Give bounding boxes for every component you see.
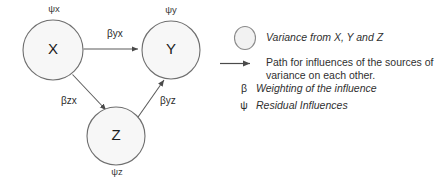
node-z-label: Z (111, 126, 120, 143)
edge-x-to-z: βzx (61, 75, 106, 111)
node-x-residual-label: ψx (48, 3, 60, 14)
legend-item-beta: β Weighting of the influence (241, 82, 377, 94)
node-y[interactable]: Y ψy (142, 4, 200, 79)
node-x[interactable]: X ψx (23, 3, 83, 80)
node-y-label: Y (166, 40, 176, 57)
legend-item-variance: Variance from X, Y and Z (235, 27, 384, 50)
edge-x-to-y-label: βyx (107, 28, 123, 39)
node-z[interactable]: Z ψz (87, 107, 145, 177)
edge-x-to-y: βyx (84, 28, 139, 49)
legend-item-path-label-line1: Path for influences of the sources of (266, 56, 434, 68)
legend-item-psi: ψ Residual Influences (240, 99, 348, 111)
node-z-residual-label: ψz (111, 166, 123, 177)
legend-item-path-label-line2: variance on each other. (266, 69, 375, 81)
ellipse-icon (235, 27, 256, 50)
node-y-residual-label: ψy (165, 4, 177, 15)
edge-z-to-y-label: βyz (160, 95, 176, 106)
node-x-label: X (48, 40, 58, 57)
legend-item-variance-label: Variance from X, Y and Z (266, 31, 384, 43)
figure-canvas: βyx βzx βyz X ψx Y ψy Z ψz (0, 0, 440, 185)
edge-x-to-z-arrow (73, 75, 107, 111)
legend-item-path: Path for influences of the sources of va… (220, 56, 434, 81)
psi-symbol-icon: ψ (240, 99, 248, 111)
legend: Variance from X, Y and Z Path for influe… (220, 27, 434, 111)
legend-item-beta-label: Weighting of the influence (256, 82, 377, 94)
legend-item-psi-label: Residual Influences (256, 99, 348, 111)
edge-x-to-z-label: βzx (61, 95, 77, 106)
beta-symbol-icon: β (241, 82, 247, 94)
edge-z-to-y: βyz (137, 80, 176, 119)
path-diagram-figure: βyx βzx βyz X ψx Y ψy Z ψz (0, 0, 440, 185)
